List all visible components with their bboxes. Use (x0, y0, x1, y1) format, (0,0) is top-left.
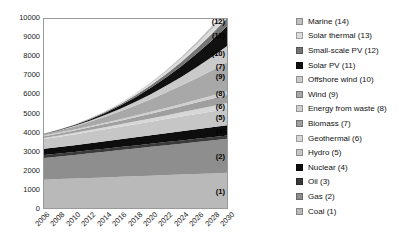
band-annotation: (11) (212, 32, 225, 40)
band-annotation: (6) (216, 103, 225, 111)
legend-item-label: Wind (9) (308, 90, 338, 99)
legend-item-label: Offshore wind (10) (308, 75, 374, 84)
legend-item-label: Hydro (5) (308, 148, 341, 157)
legend-item[interactable]: Hydro (5) (296, 145, 407, 160)
area-bands-group (44, 19, 227, 208)
band-annotation: (8) (216, 90, 225, 98)
band-annotation: (4) (216, 128, 225, 136)
legend-item-label: Biomass (7) (308, 119, 351, 128)
legend-item-label: Energy from waste (8) (308, 104, 387, 113)
legend-swatch-icon (296, 164, 303, 171)
legend-item[interactable]: Solar PV (11) (296, 58, 407, 73)
band-annotation: (1) (216, 188, 225, 196)
legend-item[interactable]: Wind (9) (296, 87, 407, 102)
chart-legend: Marine (14)Solar thermal (13)Small-scale… (296, 14, 407, 218)
legend-item-label: Coal (1) (308, 207, 336, 216)
stacked-area-chart: 0100020003000400050006000700080009000100… (0, 0, 407, 248)
plot-area: (14)(13)(12)(11)(10)(9)(8)(7)(6)(5)(4)(3… (43, 18, 228, 209)
legend-swatch-icon (296, 47, 303, 54)
band-annotation: (2) (216, 153, 225, 161)
y-tick-label: 0 (0, 205, 40, 213)
y-tick-label: 3000 (0, 148, 40, 156)
x-axis: 2006200820102012201420162018202020222024… (43, 210, 228, 246)
y-tick-label: 8000 (0, 52, 40, 60)
legend-item-label: Nuclear (4) (308, 163, 348, 172)
legend-item[interactable]: Energy from waste (8) (296, 102, 407, 117)
band-annotation: (5) (216, 114, 225, 122)
y-tick-label: 10000 (0, 14, 40, 22)
band-annotation: (7) (216, 63, 225, 71)
legend-swatch-icon (296, 149, 303, 156)
legend-item[interactable]: Gas (2) (296, 189, 407, 204)
y-tick-label: 4000 (0, 129, 40, 137)
legend-swatch-icon (296, 193, 303, 200)
y-tick-label: 7000 (0, 71, 40, 79)
y-tick-label: 1000 (0, 186, 40, 194)
legend-item[interactable]: Coal (1) (296, 204, 407, 219)
legend-item[interactable]: Geothermal (6) (296, 131, 407, 146)
legend-swatch-icon (296, 135, 303, 142)
legend-item-label: Small-scale PV (12) (308, 46, 379, 55)
legend-swatch-icon (296, 62, 303, 69)
band-annotation: (12) (212, 18, 225, 26)
legend-item[interactable]: Offshore wind (10) (296, 72, 407, 87)
legend-item-label: Marine (14) (308, 17, 349, 26)
legend-swatch-icon (296, 76, 303, 83)
legend-swatch-icon (296, 32, 303, 39)
legend-swatch-icon (296, 120, 303, 127)
legend-item[interactable]: Small-scale PV (12) (296, 43, 407, 58)
legend-item-label: Solar thermal (13) (308, 31, 372, 40)
band-annotation: (10) (212, 50, 225, 58)
legend-item[interactable]: Oil (3) (296, 175, 407, 190)
y-tick-label: 6000 (0, 90, 40, 98)
y-tick-label: 9000 (0, 33, 40, 41)
legend-swatch-icon (296, 18, 303, 25)
legend-item[interactable]: Solar thermal (13) (296, 29, 407, 44)
legend-item-label: Gas (2) (308, 192, 335, 201)
y-axis: 0100020003000400050006000700080009000100… (0, 18, 40, 209)
legend-item[interactable]: Marine (14) (296, 14, 407, 29)
legend-item-label: Geothermal (6) (308, 134, 362, 143)
legend-swatch-icon (296, 178, 303, 185)
legend-item-label: Oil (3) (308, 177, 330, 186)
legend-item[interactable]: Nuclear (4) (296, 160, 407, 175)
legend-swatch-icon (296, 105, 303, 112)
y-tick-label: 2000 (0, 167, 40, 175)
legend-item[interactable]: Biomass (7) (296, 116, 407, 131)
legend-item-label: Solar PV (11) (308, 61, 355, 70)
y-tick-label: 5000 (0, 110, 40, 118)
band-annotation: (9) (216, 73, 225, 81)
legend-swatch-icon (296, 91, 303, 98)
legend-swatch-icon (296, 208, 303, 215)
